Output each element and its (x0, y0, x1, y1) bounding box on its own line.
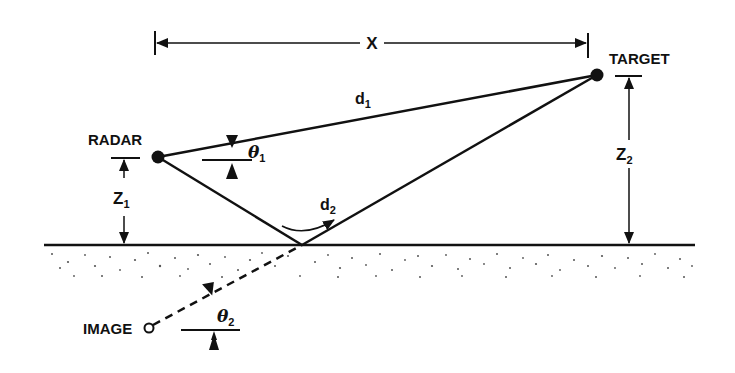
d1-label: d1 (355, 90, 371, 110)
multipath-diagram: X d1 d2 IMAGE θ2 RADAR θ1 (0, 0, 735, 373)
theta2-label: θ2 (217, 306, 234, 328)
ground-texture (51, 252, 693, 278)
d2-curved-arrow (282, 220, 334, 231)
d2-label: d2 (320, 196, 336, 216)
direct-path-d1 (158, 75, 597, 157)
image-label: IMAGE (83, 320, 132, 337)
target-label: TARGET (609, 50, 670, 67)
x-dimension: X (155, 31, 588, 58)
target-point (591, 69, 604, 82)
image-point (145, 324, 154, 333)
x-label: X (366, 34, 378, 53)
radar-point (152, 151, 165, 164)
z2-label: Z2 (616, 145, 633, 166)
theta1-label: θ1 (248, 142, 265, 164)
radar-label: RADAR (88, 131, 142, 148)
z1-label: Z1 (113, 189, 130, 210)
reflected-path-outgoing (302, 75, 597, 245)
